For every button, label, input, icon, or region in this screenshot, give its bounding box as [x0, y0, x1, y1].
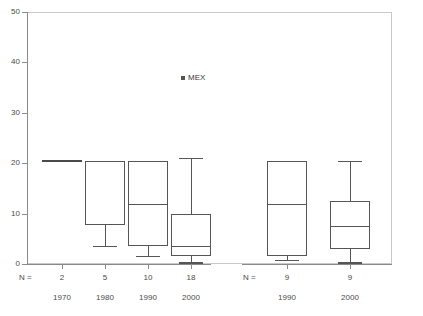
- y-tick-30: [22, 113, 27, 114]
- x-label-right-2000: 2000: [336, 294, 364, 302]
- x-tick-left-2000: [191, 265, 192, 269]
- box-left-1980: [85, 161, 125, 225]
- x-label-left-1970: 1970: [48, 294, 76, 302]
- left-panel-n-1990: 10: [138, 274, 158, 282]
- outlier-marker-mex: [181, 76, 185, 80]
- median-right-1990: [267, 204, 307, 205]
- left-panel-n-1980: 5: [95, 274, 115, 282]
- y-tick-label-30: 30: [0, 109, 20, 117]
- box-left-2000: [171, 214, 211, 256]
- y-tick-label-0: 0: [0, 260, 20, 268]
- right-panel-baseline: [242, 264, 392, 265]
- y-tick-label-20: 20: [0, 159, 20, 167]
- median-left-2000: [171, 246, 211, 247]
- x-tick-right-1990: [287, 265, 288, 269]
- whisker-left-2000-high: [191, 158, 192, 214]
- box-right-2000: [330, 201, 370, 249]
- x-tick-right-2000: [350, 265, 351, 269]
- left-panel-n-label: N =: [19, 274, 32, 282]
- y-tick-10: [22, 214, 27, 215]
- y-axis-line: [27, 12, 28, 264]
- y-tick-label-10: 10: [0, 210, 20, 218]
- boxplot-figure: 50 40 30 20 10 0 MEX N = 2 5 10 18 1970 …: [0, 0, 423, 316]
- y-tick-label-40: 40: [0, 58, 20, 66]
- whisker-cap-left-2000-high: [179, 158, 203, 159]
- whisker-cap-left-1980-low: [93, 246, 117, 247]
- x-label-left-2000: 2000: [177, 294, 205, 302]
- x-tick-left-1970: [62, 265, 63, 269]
- whisker-cap-right-2000-high: [338, 161, 362, 162]
- whisker-right-2000-high: [350, 161, 351, 201]
- outlier-label-mex: MEX: [188, 74, 205, 82]
- y-tick-20: [22, 163, 27, 164]
- median-left-1990: [128, 204, 168, 205]
- y-tick-label-50: 50: [0, 8, 20, 16]
- left-panel-n-2000: 18: [181, 274, 201, 282]
- x-label-right-1990: 1990: [273, 294, 301, 302]
- whisker-cap-left-2000-low: [179, 262, 203, 264]
- whisker-left-1980-low: [105, 225, 106, 246]
- whisker-cap-left-1990-low: [136, 256, 160, 257]
- whisker-left-1990-low: [148, 246, 149, 256]
- right-panel-n-1990: 9: [277, 274, 297, 282]
- x-tick-left-1990: [148, 265, 149, 269]
- box-right-1990: [267, 161, 307, 256]
- right-panel-n-2000: 9: [340, 274, 360, 282]
- left-panel-baseline: [27, 264, 211, 265]
- x-label-left-1990: 1990: [134, 294, 162, 302]
- right-panel-n-label: N =: [243, 274, 256, 282]
- whisker-cap-right-1990-low: [275, 260, 299, 261]
- whisker-cap-right-2000-low: [338, 262, 362, 264]
- whisker-right-2000-low: [350, 249, 351, 262]
- box-left-1970: [42, 160, 82, 162]
- median-right-2000: [330, 226, 370, 227]
- y-tick-50: [22, 12, 27, 13]
- x-tick-left-1980: [105, 265, 106, 269]
- x-label-left-1980: 1980: [91, 294, 119, 302]
- y-tick-40: [22, 62, 27, 63]
- left-panel-n-1970: 2: [52, 274, 72, 282]
